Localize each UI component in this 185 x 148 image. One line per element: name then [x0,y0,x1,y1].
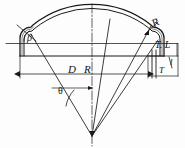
theta-arrow [88,86,93,90]
drawing-canvas: β R T. L D R T l θ [0,0,185,148]
diameter-label: D [68,64,76,75]
beta-leader [0,24,18,42]
radius-line-right-flange [92,40,158,136]
crown-radius-label: R [84,64,91,75]
straight-flange-label: l [170,58,173,67]
knuckle-angle-beta-label: β [27,33,32,43]
knuckle-radius-leader-arrow [144,30,149,35]
tangent-line-label: T. L [155,40,170,50]
half-apex-angle-label: θ [58,86,63,96]
thickness-label: T [159,66,164,75]
apex-point [89,131,95,137]
